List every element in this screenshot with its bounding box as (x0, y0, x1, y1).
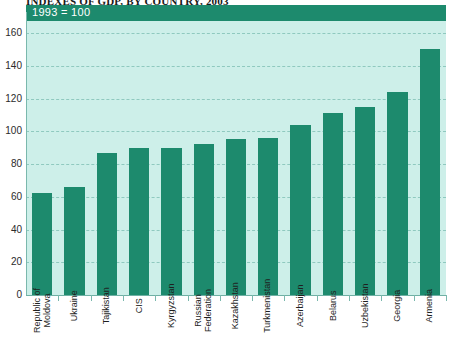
bar (129, 148, 149, 295)
bar (97, 153, 117, 295)
plot-inner (26, 21, 446, 295)
x-category-label-text: Turkmenistan (264, 279, 274, 333)
plot-area (26, 21, 446, 295)
bar (161, 148, 181, 295)
y-tick-label: 140 (0, 60, 22, 71)
x-category-label-text: Kyrgyzstan (167, 283, 177, 328)
base-year-label: 1993 = 100 (32, 6, 90, 18)
y-axis-line (26, 12, 27, 295)
x-category-label-text: Azerbaijan (296, 284, 306, 327)
y-tick-label: 160 (0, 27, 22, 38)
gridline (26, 99, 446, 100)
bar (194, 144, 214, 295)
x-category-label: Armenia (406, 301, 454, 349)
y-tick-label: 100 (0, 125, 22, 136)
bar (420, 49, 440, 295)
x-category-label-text: Tajikistan (102, 287, 112, 324)
y-tick-label: 120 (0, 93, 22, 104)
bar (258, 138, 278, 295)
y-tick-label: 40 (0, 224, 22, 235)
y-tick-label: 60 (0, 191, 22, 202)
chart-figure: INDEXES OF GDP, BY COUNTRY, 2003 1993 = … (0, 0, 454, 349)
bar (32, 193, 52, 295)
gridline (26, 131, 446, 132)
bar (226, 139, 246, 295)
bar (355, 107, 375, 295)
bar (323, 113, 343, 295)
base-year-band: 1993 = 100 (26, 5, 446, 22)
x-category-label-text: Armenia (425, 289, 435, 323)
y-tick-label: 20 (0, 256, 22, 267)
bar (64, 187, 84, 295)
x-category-label-text: RussianFederation (194, 289, 213, 332)
y-axis-tick-labels: 020406080100120140160 (0, 0, 24, 349)
bar (290, 125, 310, 295)
bar (387, 92, 407, 295)
gridline (26, 33, 446, 34)
x-category-label-text: CIS (134, 298, 144, 313)
x-category-label-text: Uzbekistan (360, 283, 370, 328)
x-category-label-text: Republic ofMoldova (33, 288, 52, 333)
y-tick-label: 80 (0, 158, 22, 169)
x-category-label-text: Georgia (393, 290, 403, 322)
y-tick-label: 0 (0, 289, 22, 300)
x-category-label-text: Kazakhstan (231, 282, 241, 329)
x-category-label-text: Ukraine (70, 290, 80, 321)
x-axis-category-labels: Republic ofMoldovaUkraineTajikistanCISKy… (26, 301, 446, 349)
x-category-label-text: Belarus (328, 290, 338, 321)
gridline (26, 66, 446, 67)
